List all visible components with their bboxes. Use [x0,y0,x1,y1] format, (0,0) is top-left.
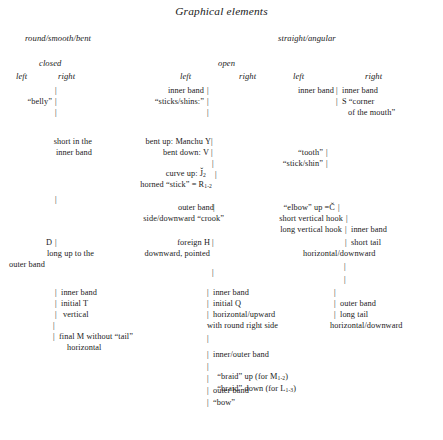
entry-tooth: “tooth” [250,148,323,158]
entry-short-tail: short tail [351,238,381,248]
connector-pipe: | [344,275,346,285]
entry-foreign-h: foreign H [110,238,210,248]
entry-horizontal-downward-1: horizontal/downward [303,249,376,259]
connector-pipe: | [207,299,209,309]
connector-pipe: | [207,362,209,372]
entry-inner-band-c1: inner band [0,148,92,158]
connector-pipe: | [211,148,213,158]
entry-downward-pointed: downward, pointed [100,249,210,259]
connector-pipe: | [212,159,214,169]
connector-pipe: | [207,86,209,96]
entry-horned-stick-r-subscript: 1-2 [204,184,212,190]
connector-pipe: | [55,288,57,298]
connector-pipe: | [207,310,209,320]
entry-with-round-right-side: with round right side [207,321,278,331]
connector-pipe: | [53,321,55,331]
entry-final-m: final M without “tail” [59,332,133,342]
side-header-col1-left: left [16,71,27,81]
entry-horned-stick-r: horned “stick” = R1-2 [80,170,212,191]
side-header-col5-left: left [293,71,304,81]
connector-pipe: | [336,86,338,96]
entry-initial-q: initial Q [213,299,241,309]
entry-inner-band-c6-2: inner band [351,225,387,235]
connector-pipe: | [345,238,347,248]
connector-pipe: | [207,350,209,360]
entry-side-downward-crook: side/downward “crook” [100,214,224,224]
entry-belly: “belly” [0,97,52,107]
entry-bent-down-v: bent down: V [96,148,209,158]
connector-pipe: | [207,97,209,107]
entry-stick-shin: “stick/shin” [240,159,323,169]
connector-pipe: | [212,268,214,278]
connector-pipe: | [215,170,217,180]
connector-pipe: | [55,310,57,320]
connector-pipe: | [334,310,336,320]
entry-long-up-to-the: long up to the [0,249,94,259]
entry-bow: “bow” [213,398,235,408]
connector-pipe: | [55,299,57,309]
entry-horizontal-downward-2: horizontal/downward [330,321,403,331]
entry-elbow-up: “elbow” up =Č [240,203,335,213]
connector-pipe: | [55,97,57,107]
connector-pipe: | [212,238,214,248]
entry-s-corner: S “corner [342,97,374,107]
entry-long-vertical-hook: long vertical hook [230,225,342,235]
connector-pipe: | [334,299,336,309]
side-header-col3-left: left [180,71,191,81]
connector-pipe: | [55,238,57,248]
entry-of-the-mouth: of the mouth” [348,108,395,118]
connector-pipe: | [207,398,209,408]
entry-short-in-the: short in the [0,137,92,147]
connector-pipe: | [207,334,209,344]
category-header-straight-angular: straight/angular [278,33,336,43]
connector-pipe: | [55,108,57,118]
entry-sticks-shins: “sticks/shins:” [120,97,204,107]
entry-d-letter: D [0,238,52,248]
entry-outer-band-c6: outer band [340,299,376,309]
entry-long-tail: long tail [340,310,368,320]
connector-pipe: | [55,195,57,205]
entry-outer-band-c3: outer band [110,203,214,213]
connector-pipe: | [207,108,209,118]
connector-pipe: | [336,97,338,107]
entry-initial-t: initial T [61,299,88,309]
entry-horned-stick-r-text: horned “stick” = R [140,180,204,189]
connector-pipe: | [326,159,328,169]
aperture-header-closed: closed [39,58,61,68]
aperture-header-open: open [218,58,235,68]
entry-outer-band-left: outer band [9,260,45,270]
entry-vertical: vertical [63,310,89,320]
entry-inner-outer-band: inner/outer band [213,350,269,360]
page-title: Graphical elements [0,6,443,16]
connector-pipe: | [211,137,213,147]
connector-pipe: | [346,214,348,224]
side-header-col4-right: right [239,71,256,81]
connector-pipe: | [344,262,346,272]
side-header-col6-right: right [365,71,382,81]
entry-horizontal-left: horizontal [67,343,101,353]
side-header-col2-right: right [58,71,75,81]
connector-pipe: | [207,386,209,396]
connector-pipe: | [345,225,347,235]
connector-pipe: | [55,86,57,96]
category-header-round-smooth-bent: round/smooth/bent [25,33,91,43]
entry-inner-band-c3-2: inner band [213,288,249,298]
connector-pipe: | [207,288,209,298]
connector-pipe: | [326,148,328,158]
entry-outer-band-c3-bottom: outer band [213,386,249,396]
entry-inner-band-c5: inner band [264,86,334,96]
entry-inner-band-left-2: inner band [61,288,97,298]
connector-pipe: | [213,203,215,213]
entry-bent-up-manchu-y: bent up: Manchu Y [96,137,211,147]
connector-pipe: | [53,332,55,342]
entry-braid-down-close: ) [293,384,296,393]
connector-pipe: | [207,374,209,384]
connector-pipe: | [334,288,336,298]
entry-inner-band-c3-1: inner band [120,86,204,96]
entry-horizontal-upward: horizontal/upward [213,310,275,320]
entry-short-vertical-hook: short vertical hook [230,214,343,224]
connector-pipe: | [338,203,340,213]
entry-inner-band-c6: inner band [342,86,378,96]
